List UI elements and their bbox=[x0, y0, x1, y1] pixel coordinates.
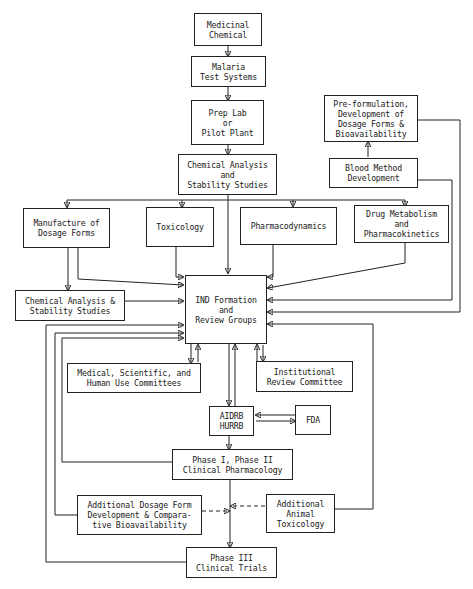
node-aidrb-hurrb: AIDRB HURRB bbox=[209, 406, 254, 436]
node-label: Chemical Analysis bbox=[187, 160, 267, 170]
node-label: Chemical bbox=[209, 30, 247, 40]
node-label: Clinical Pharmacology bbox=[183, 465, 282, 475]
node-prep-lab: Prep Lab or Pilot Plant bbox=[191, 100, 264, 145]
node-institutional-review-committee: Institutional Review Committee bbox=[256, 361, 353, 392]
node-label: AIDRB bbox=[220, 411, 244, 421]
node-label: FDA bbox=[306, 415, 320, 425]
node-label: Malaria bbox=[212, 62, 245, 72]
node-label: Additional bbox=[277, 499, 324, 509]
node-label: and bbox=[220, 170, 234, 180]
node-label: Pharmacodynamics bbox=[251, 221, 327, 231]
node-label: Human Use Committees bbox=[87, 378, 182, 388]
node-phase-1-2: Phase I, Phase II Clinical Pharmacology bbox=[172, 449, 293, 480]
node-label: Stability Studies bbox=[187, 180, 267, 190]
node-label: Blood Method bbox=[345, 163, 402, 173]
node-toxicology: Toxicology bbox=[146, 207, 214, 247]
node-preformulation: Pre-formulation, Development of Dosage F… bbox=[324, 95, 418, 142]
node-label: Toxicology bbox=[156, 222, 203, 232]
node-label: HURRB bbox=[220, 421, 244, 431]
node-label: Medicinal bbox=[207, 20, 250, 30]
node-medical-committees: Medical, Scientific, and Human Use Commi… bbox=[67, 363, 201, 393]
node-label: Pharmacokinetics bbox=[364, 229, 440, 239]
node-drug-metabolism: Drug Metabolism and Pharmacokinetics bbox=[354, 205, 449, 243]
node-label: Chemical Analysis & bbox=[25, 296, 115, 306]
node-label: and bbox=[219, 305, 233, 315]
node-label: Manufacture of bbox=[33, 218, 99, 228]
node-label: Pre-formulation, bbox=[333, 99, 409, 109]
node-label: Dosage Forms & bbox=[338, 119, 404, 129]
node-label: Dosage Forms bbox=[38, 228, 95, 238]
node-label: Review Committee bbox=[267, 377, 343, 387]
node-label: Development of bbox=[338, 109, 404, 119]
node-label: tive Bioavailability bbox=[92, 520, 187, 530]
node-label: Stability Studies bbox=[30, 306, 110, 316]
node-label: or bbox=[223, 118, 232, 128]
node-chemical-analysis-stability: Chemical Analysis and Stability Studies bbox=[178, 154, 277, 195]
node-label: Phase I, Phase II bbox=[192, 455, 272, 465]
node-pharmacodynamics: Pharmacodynamics bbox=[240, 207, 337, 245]
node-medicinal-chemical: Medicinal Chemical bbox=[194, 13, 262, 46]
node-label: Additional Dosage Form bbox=[87, 500, 191, 510]
node-label: Test Systems bbox=[200, 72, 257, 82]
node-label: Drug Metabolism bbox=[366, 209, 437, 219]
node-label: Clinical Trials bbox=[196, 563, 267, 573]
node-label: Animal bbox=[286, 509, 314, 519]
node-label: Bioavailability bbox=[336, 129, 407, 139]
node-label: IND Formation bbox=[195, 295, 256, 305]
node-label: Toxicology bbox=[277, 519, 324, 529]
node-malaria-test-systems: Malaria Test Systems bbox=[191, 56, 266, 87]
node-label: and bbox=[394, 219, 408, 229]
node-blood-method-development: Blood Method Development bbox=[329, 158, 418, 188]
node-label: Medical, Scientific, and bbox=[77, 368, 191, 378]
node-phase-3: Phase III Clinical Trials bbox=[186, 547, 277, 578]
node-label: Development & Compara- bbox=[87, 510, 191, 520]
node-label: Phase III bbox=[210, 553, 253, 563]
node-manufacture-dosage-forms: Manufacture of Dosage Forms bbox=[23, 208, 110, 248]
node-label: Pilot Plant bbox=[201, 128, 253, 138]
node-label: Prep Lab bbox=[209, 108, 247, 118]
node-label: Review Groups bbox=[195, 315, 256, 325]
node-label: Institutional bbox=[274, 367, 335, 377]
node-fda: FDA bbox=[295, 405, 331, 435]
node-additional-dosage-form: Additional Dosage Form Development & Com… bbox=[77, 495, 202, 535]
node-additional-animal-toxicology: Additional Animal Toxicology bbox=[266, 494, 335, 533]
node-chemical-analysis-stability-2: Chemical Analysis & Stability Studies bbox=[15, 290, 125, 321]
node-ind-formation: IND Formation and Review Groups bbox=[185, 275, 267, 344]
node-label: Development bbox=[347, 173, 399, 183]
